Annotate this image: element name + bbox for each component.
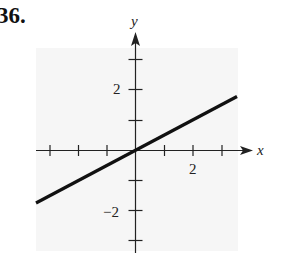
graph: y x 2 −2 2 (0, 0, 285, 269)
x-axis-label: x (256, 142, 264, 158)
problem-number: 36. (0, 3, 26, 29)
figure: 36. y x (0, 0, 285, 269)
x-tick-label-2: 2 (189, 161, 197, 177)
y-tick-label-2: 2 (113, 81, 121, 97)
y-tick-label-neg2: −2 (103, 204, 119, 220)
y-axis-label: y (129, 13, 138, 29)
